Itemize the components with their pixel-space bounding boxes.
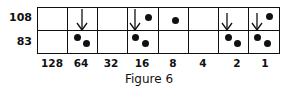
cell-top-64 — [68, 8, 98, 31]
cell-bottom-4 — [189, 31, 219, 54]
column-label-32: 32 — [96, 57, 126, 69]
cell-bottom-32 — [98, 31, 128, 54]
bead-dot — [74, 34, 81, 41]
column-label-8: 8 — [158, 57, 188, 69]
cell-bottom-64 — [68, 31, 98, 54]
column-label-64: 64 — [66, 57, 96, 69]
cell-bottom-8 — [159, 31, 189, 54]
cell-bottom-128 — [38, 31, 68, 54]
cell-top-16 — [128, 8, 158, 31]
column-label-1: 1 — [250, 57, 280, 69]
figure-caption: Figure 6 — [125, 72, 173, 86]
bead-dot — [172, 17, 179, 24]
cell-bottom-2 — [219, 31, 249, 54]
bead-dot — [264, 40, 271, 47]
column-label-2: 2 — [222, 57, 252, 69]
place-value-grid — [37, 7, 280, 54]
cell-top-8 — [159, 8, 189, 31]
cell-top-128 — [38, 8, 68, 31]
down-arrow-icon — [251, 13, 263, 31]
column-label-16: 16 — [127, 57, 157, 69]
bead-dot — [83, 40, 90, 47]
cell-bottom-16 — [128, 31, 158, 54]
row-label-83: 83 — [2, 35, 32, 48]
bead-dot — [266, 13, 273, 20]
down-arrow-icon — [129, 9, 141, 31]
bead-dot — [254, 34, 261, 41]
cell-top-2 — [219, 8, 249, 31]
bead-dot — [234, 40, 241, 47]
cell-top-4 — [189, 8, 219, 31]
bead-dot — [132, 34, 139, 41]
down-arrow-icon — [221, 13, 233, 31]
down-arrow-icon — [76, 9, 88, 31]
bead-dot — [142, 40, 149, 47]
cell-top-1 — [249, 8, 279, 31]
column-label-128: 128 — [37, 57, 67, 69]
bead-dot — [145, 14, 152, 21]
bead-dot — [225, 34, 232, 41]
row-label-108: 108 — [2, 11, 32, 24]
cell-top-32 — [98, 8, 128, 31]
cell-bottom-1 — [249, 31, 279, 54]
column-label-4: 4 — [188, 57, 218, 69]
